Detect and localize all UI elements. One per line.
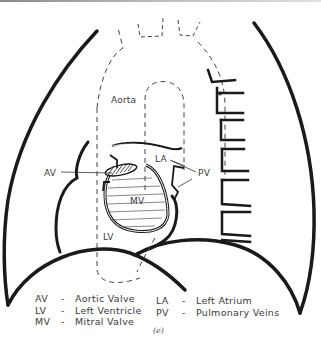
legend-item-lv: LV-Left Ventricle (35, 306, 142, 316)
legend-item-av: AV-Aortic Valve (35, 294, 135, 304)
pv-bracket (172, 166, 184, 200)
figure-caption: (e) (153, 326, 164, 335)
legend-item-la: LA-Left Atrium (156, 296, 252, 306)
label-mv: MV (130, 197, 144, 206)
aorta-top-arch (138, 18, 163, 37)
la-roof (112, 143, 182, 150)
label-pv: PV (198, 169, 210, 178)
heart-left-border (56, 142, 88, 252)
av-leader (61, 172, 112, 173)
lv-dashed-outline (137, 238, 155, 272)
inner-dashed-loop (145, 82, 184, 190)
legend-item-mv: MV-Mitral Valve (35, 317, 134, 327)
right-chest-wall (254, 23, 314, 313)
label-lv: LV (103, 233, 114, 242)
la-leader (170, 160, 185, 166)
aorta-top-arch-2 (178, 20, 200, 36)
label-av: AV (44, 169, 56, 178)
pv-leader-2 (178, 179, 192, 187)
vertebral-ladder (208, 70, 250, 242)
label-la: LA (155, 155, 167, 164)
label-aorta: Aorta (111, 96, 136, 105)
legend-item-pv: PV-Pulmonary Veins (156, 308, 279, 318)
aortic-valve (104, 162, 137, 178)
